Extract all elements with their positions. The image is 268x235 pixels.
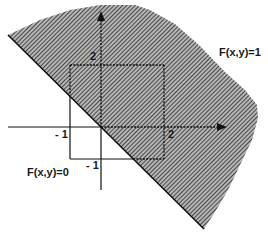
shaded-region-f1 bbox=[8, 5, 258, 229]
tick-x-neg1: - 1 bbox=[55, 129, 68, 140]
diagram-canvas bbox=[0, 0, 268, 235]
region-diagram: F(x,y)=1 F(x,y)=0 - 1 2 - 1 2 bbox=[0, 0, 268, 235]
tick-y-2: 2 bbox=[90, 51, 96, 62]
label-f-equals-0: F(x,y)=0 bbox=[27, 167, 69, 178]
label-f-equals-1: F(x,y)=1 bbox=[219, 47, 261, 58]
tick-y-neg1: - 1 bbox=[86, 160, 99, 171]
tick-x-2: 2 bbox=[168, 129, 174, 140]
